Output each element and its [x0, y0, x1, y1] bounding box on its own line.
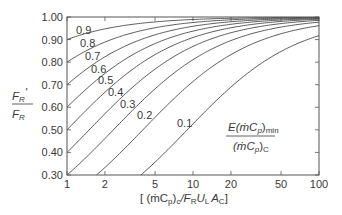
y-tick-label: 0.90 [42, 34, 63, 46]
y-tick-label: 0.40 [42, 146, 63, 158]
y-tick-label: 0.60 [42, 101, 63, 113]
y-tick-label: 0.70 [42, 79, 63, 91]
x-tick-label: 2 [102, 178, 108, 190]
x-tick-label: 20 [225, 178, 237, 190]
parameter-label: E(ṁCp)min (ṁCp)C [226, 121, 279, 154]
curve-0.4 [67, 20, 319, 152]
y-tick-label: 0.80 [42, 56, 63, 68]
curve-labels: 0.90.80.70.60.50.40.30.20.1 [76, 24, 192, 129]
svg-text:FR: FR [12, 108, 25, 122]
curve-label: 0.9 [76, 24, 91, 36]
curve-label: 0.4 [108, 86, 123, 98]
x-tick-label: 1 [64, 178, 70, 190]
chart: 125102050100 0.300.400.500.600.700.800.9… [0, 0, 342, 215]
curve-label: 0.2 [137, 109, 152, 121]
plot-frame [67, 17, 319, 175]
curve-label: 0.3 [120, 98, 135, 110]
curve-label: 0.7 [85, 50, 100, 62]
y-tick-label: 0.30 [42, 169, 63, 181]
curve-label: 0.8 [80, 37, 95, 49]
curve-0.8 [67, 18, 319, 63]
svg-text:(ṁCp)C: (ṁCp)C [233, 140, 269, 154]
curve-label: 0.5 [98, 74, 113, 86]
curve-label: 0.1 [177, 117, 192, 129]
svg-text:FR': FR' [12, 86, 28, 104]
x-tick-label: 5 [152, 178, 158, 190]
svg-text:E(ṁCp)min: E(ṁCp)min [228, 121, 279, 135]
x-axis-label: [ (ṁCp)c/FRULAC] [140, 192, 228, 206]
y-tick-label: 0.50 [42, 124, 63, 136]
y-tick-label: 1.00 [42, 11, 63, 23]
x-tick-label: 10 [187, 178, 199, 190]
svg-text:[ (ṁCp)c/FRULAC]: [ (ṁCp)c/FRULAC] [140, 192, 228, 206]
curve-0.3 [67, 22, 319, 175]
y-axis-label: FR' FR [12, 86, 33, 122]
x-tick-label: 100 [310, 178, 328, 190]
x-tick-label: 50 [275, 178, 287, 190]
